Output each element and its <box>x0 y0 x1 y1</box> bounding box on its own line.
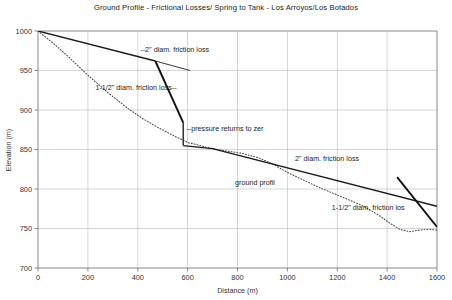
y-axis-tickmarks <box>35 31 39 268</box>
y-tick-700: 700 <box>20 264 32 273</box>
y-tick-750: 750 <box>20 224 32 233</box>
x-tick-400: 400 <box>132 273 144 282</box>
annotation-ground-profile: ground profil <box>235 178 275 187</box>
x-tick-1200: 1200 <box>329 273 345 282</box>
annotation-pressure-returns-to-zero: --pressure returns to zer <box>186 124 264 133</box>
chart-figure: Ground Profile - Frictional Losses/ Spri… <box>0 0 452 300</box>
x-tick-200: 200 <box>82 273 94 282</box>
x-axis-tickmarks <box>38 268 437 272</box>
x-tick-600: 600 <box>181 273 193 282</box>
y-tick-900: 900 <box>20 106 32 115</box>
x-tick-1400: 1400 <box>379 273 395 282</box>
y-tick-800: 800 <box>20 185 32 194</box>
annotation-1half-upper: 1-1/2" diam. friction loss-- <box>95 83 177 92</box>
annotation-2in-upper: --2" diam. friction loss <box>140 45 209 54</box>
y-tick-850: 850 <box>20 145 32 154</box>
x-axis-labels: 0 200 400 600 800 1000 1200 1400 1600 <box>36 273 445 282</box>
annotation-2in-lower: 2" diam. friction loss <box>295 154 359 163</box>
y-tick-1000: 1000 <box>16 27 32 36</box>
y-tick-950: 950 <box>20 66 32 75</box>
x-tick-0: 0 <box>36 273 40 282</box>
y-axis-title: Elevation (m) <box>4 129 13 171</box>
x-tick-800: 800 <box>231 273 243 282</box>
plot-area: 1000 950 900 850 800 750 700 0 200 400 6… <box>0 0 452 300</box>
x-tick-1600: 1600 <box>429 273 445 282</box>
annotation-1half-lower: 1-1/2" diam. friction los <box>332 203 405 212</box>
y-axis-labels: 1000 950 900 850 800 750 700 <box>16 27 32 273</box>
x-axis-title: Distance (m) <box>217 286 258 295</box>
x-tick-1000: 1000 <box>279 273 295 282</box>
